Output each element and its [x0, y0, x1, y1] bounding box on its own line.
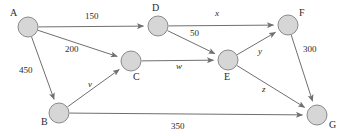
graph-edge-d-f	[168, 25, 273, 26]
graph-node-f[interactable]	[278, 15, 298, 35]
edge-label-d-f: x	[215, 9, 219, 18]
node-label-g: G	[329, 120, 336, 130]
edge-label-a-d: 150	[85, 12, 99, 21]
edge-label-b-g: 350	[171, 122, 185, 131]
edge-label-f-g: 300	[303, 45, 317, 54]
edge-label-d-e: 50	[190, 29, 199, 38]
node-label-a: A	[10, 8, 17, 18]
graph-edge-b-g	[69, 113, 302, 115]
graph-node-b[interactable]	[49, 103, 69, 123]
node-label-d: D	[152, 3, 159, 13]
edge-label-e-g: z	[262, 85, 266, 94]
graph-edge-b-c	[68, 69, 120, 106]
node-label-f: F	[299, 8, 305, 18]
graph-node-c[interactable]	[121, 51, 141, 71]
edge-label-c-e: w	[176, 62, 182, 71]
graph-edge-a-b	[32, 37, 55, 99]
edge-label-a-b: 450	[19, 66, 33, 75]
graph-diagram: ABCDEFG 150200450v350wx50yz300	[0, 0, 346, 136]
edge-label-b-c: v	[88, 80, 92, 89]
node-label-e: E	[224, 72, 230, 82]
edge-lines-group	[32, 25, 313, 115]
node-label-b: B	[41, 117, 48, 127]
node-circles-group	[18, 15, 327, 125]
graph-node-d[interactable]	[148, 16, 168, 36]
graph-node-e[interactable]	[218, 50, 238, 70]
node-label-c: C	[133, 72, 140, 82]
graph-node-g[interactable]	[307, 105, 327, 125]
edge-label-a-c: 200	[65, 45, 79, 54]
graph-node-a[interactable]	[18, 17, 38, 37]
graph-svg-layer	[0, 0, 346, 136]
graph-edge-a-d	[38, 26, 143, 27]
graph-edge-e-g	[237, 66, 305, 108]
graph-edge-e-f	[237, 32, 275, 54]
edge-label-e-f: y	[258, 47, 262, 56]
